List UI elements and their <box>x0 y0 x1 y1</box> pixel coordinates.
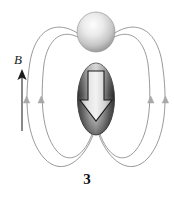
field-arrowhead-left-inner <box>38 96 44 103</box>
field-arrowhead-left-outer <box>23 96 29 103</box>
figure-number-label: 3 <box>0 172 174 187</box>
figure-container: B 3 <box>0 0 174 197</box>
field-arrowhead-right-outer <box>162 96 168 103</box>
field-arrowhead-right-inner <box>148 96 154 103</box>
upper-sphere <box>77 12 115 52</box>
b-field-label: B <box>14 53 22 66</box>
magnetic-field-diagram <box>0 0 174 197</box>
